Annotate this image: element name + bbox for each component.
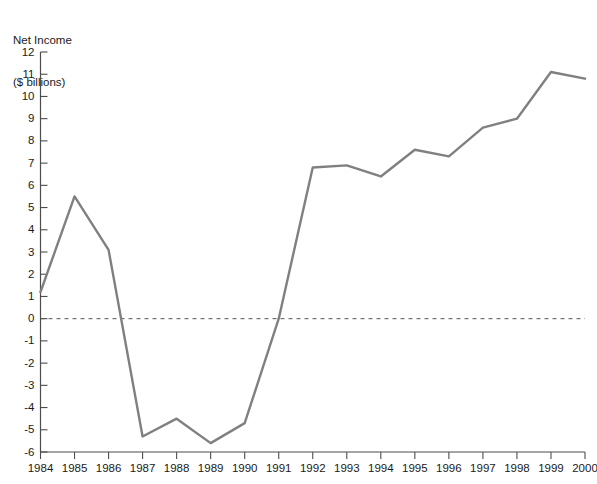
y-tick-label: 11 [23,68,35,80]
y-axis-tick-marks [41,52,48,452]
x-tick-label: 1984 [28,462,54,474]
x-tick-label: 1985 [62,462,88,474]
x-tick-label: 1993 [334,462,360,474]
y-tick-label: 7 [28,157,34,169]
y-tick-label: 10 [22,90,35,102]
y-tick-label: 5 [28,201,34,213]
y-tick-label: 2 [28,268,34,280]
x-axis-tick-labels: 1984198519861987198819891990199119921993… [28,462,597,474]
x-tick-label: 1988 [164,462,190,474]
x-tick-label: 1997 [470,462,496,474]
x-tick-label: 1989 [198,462,224,474]
x-tick-label: 1992 [300,462,326,474]
x-tick-label: 2000 [572,462,597,474]
x-tick-label: 1995 [402,462,428,474]
y-tick-label: -1 [24,334,34,346]
y-tick-label: 1 [28,290,34,302]
x-tick-label: 1994 [368,462,394,474]
y-tick-label: 8 [28,134,34,146]
plot-area: 1211109876543210-1-2-3-4-5-6 19841985198… [0,0,597,484]
x-tick-label: 1996 [436,462,462,474]
x-axis-tick-marks [41,452,586,459]
net-income-series-line [41,72,586,443]
y-tick-label: -6 [24,446,34,458]
y-tick-label: 6 [28,179,34,191]
x-tick-label: 1986 [96,462,122,474]
y-tick-label: -5 [24,423,34,435]
y-tick-label: -3 [24,379,34,391]
x-tick-label: 1991 [266,462,292,474]
y-tick-label: 4 [28,223,35,235]
y-tick-label: 9 [28,112,34,124]
x-tick-label: 1987 [130,462,156,474]
y-tick-label: 3 [28,246,34,258]
net-income-line-chart: Net Income ($ billions) 1211109876543210… [0,0,597,484]
x-tick-label: 1990 [232,462,258,474]
y-tick-label: 12 [22,46,35,58]
y-axis-tick-labels: 1211109876543210-1-2-3-4-5-6 [22,46,35,458]
y-tick-label: -4 [24,401,35,413]
x-tick-label: 1998 [504,462,530,474]
y-tick-label: -2 [24,357,34,369]
y-tick-label: 0 [28,312,34,324]
x-tick-label: 1999 [538,462,564,474]
